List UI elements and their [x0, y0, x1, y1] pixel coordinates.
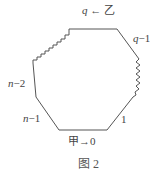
label-q-minus-1: q−1	[133, 33, 150, 44]
var-q: q	[82, 4, 88, 16]
edge-bottom-right	[107, 97, 133, 130]
suffix: −1	[139, 32, 151, 44]
position-one: 1	[121, 113, 127, 125]
arrow-left-icon: ←	[90, 4, 101, 16]
figure-caption: 图 2	[78, 158, 99, 170]
name-yi: 乙	[104, 4, 115, 16]
label-n-minus-1: n−1	[23, 113, 40, 124]
edge-right-wavy	[133, 59, 140, 97]
label-1: 1	[121, 114, 127, 125]
suffix: −1	[29, 112, 41, 124]
value-zero: 0	[90, 135, 96, 147]
name-jia: 甲	[68, 135, 79, 147]
suffix: −2	[14, 77, 26, 89]
label-n-minus-2: n−2	[8, 78, 25, 89]
polygon-figure: q ← 乙 q−1 n−2 n−1 1 甲→0 图 2	[0, 0, 162, 175]
arrow-right-icon: →	[79, 135, 90, 147]
edge-left	[33, 63, 36, 97]
label-jia-0: 甲→0	[68, 136, 96, 147]
label-top-q-yi: q ← 乙	[82, 5, 115, 16]
edge-left-stair	[33, 29, 69, 63]
